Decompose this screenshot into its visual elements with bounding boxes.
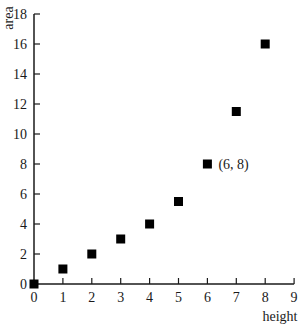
y-tick-label: 8	[20, 157, 27, 172]
data-point-marker	[87, 250, 96, 259]
data-point-marker	[232, 107, 241, 116]
x-tick-label: 1	[59, 290, 66, 305]
data-point-marker	[174, 197, 183, 206]
y-tick-label: 10	[13, 127, 27, 142]
data-point-marker	[58, 265, 67, 274]
annotations: (6, 8)	[218, 157, 249, 173]
data-point-marker	[203, 160, 212, 169]
x-tick-label: 5	[175, 290, 182, 305]
x-axis-label: height	[263, 309, 298, 324]
x-tick-label: 9	[291, 290, 298, 305]
y-tick-label: 12	[13, 97, 27, 112]
tick-labels: 0123456789024681012141618	[13, 7, 298, 305]
data-point-marker	[30, 280, 39, 289]
data-point-marker	[261, 40, 270, 49]
y-tick-label: 2	[20, 247, 27, 262]
x-tick-label: 0	[31, 290, 38, 305]
x-tick-label: 7	[233, 290, 240, 305]
x-tick-label: 6	[204, 290, 211, 305]
y-tick-label: 14	[13, 67, 27, 82]
x-tick-label: 2	[88, 290, 95, 305]
x-tick-label: 8	[262, 290, 269, 305]
x-tick-label: 3	[117, 290, 124, 305]
point-annotation: (6, 8)	[218, 157, 249, 173]
y-tick-label: 4	[20, 217, 27, 232]
tick-marks	[34, 14, 294, 284]
data-point-marker	[145, 220, 154, 229]
data-point-marker	[116, 235, 125, 244]
y-tick-label: 6	[20, 187, 27, 202]
y-tick-label: 0	[20, 277, 27, 292]
y-axis-label: area	[1, 6, 16, 30]
scatter-chart: 0123456789024681012141618 (6, 8) height …	[0, 0, 301, 335]
axes	[34, 14, 294, 284]
x-tick-label: 4	[146, 290, 153, 305]
y-tick-label: 16	[13, 37, 27, 52]
